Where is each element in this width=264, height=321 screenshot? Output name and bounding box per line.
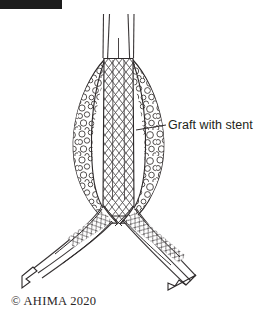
graft-with-stent-label: Graft with stent [168, 118, 253, 132]
aortic-aneurysm-illustration [0, 0, 264, 321]
figure-container: Graft with stent © AHIMA 2020 [0, 0, 264, 321]
right-flow-arrowhead [168, 275, 196, 290]
left-flow-arrowhead [22, 267, 37, 288]
copyright-notice: © AHIMA 2020 [11, 294, 96, 309]
